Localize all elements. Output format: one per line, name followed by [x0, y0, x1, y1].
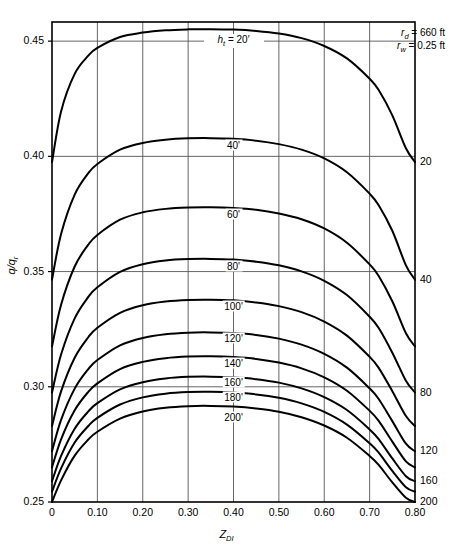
x-axis-tick-label: 0.30	[168, 506, 208, 518]
y-axis-title-text: q/qr	[5, 257, 17, 275]
curve-label-200ft: 200'	[222, 411, 245, 422]
x-axis-tick-label: 0.40	[214, 506, 254, 518]
curve-label-140ft: 140'	[222, 357, 245, 368]
y-axis-title: q/qr	[5, 257, 20, 275]
right-axis-label: 40	[420, 273, 432, 285]
x-axis-tick-label: 0	[32, 506, 72, 518]
curve-label-40ft: 40'	[225, 139, 242, 150]
x-axis-tick-label: 0.20	[123, 506, 163, 518]
x-axis-tick-label: 0.70	[350, 506, 390, 518]
x-axis-tick-label: 0.80	[395, 506, 435, 518]
curve-label-60ft: 60'	[225, 208, 242, 219]
curve-label-100ft: 100'	[222, 301, 245, 312]
right-axis-label: 80	[420, 386, 432, 398]
x-axis-title-text: ZDI	[219, 528, 233, 540]
right-axis-label: 200	[420, 495, 438, 507]
x-axis-tick-label: 0.10	[77, 506, 117, 518]
curve-label-180ft: 180'	[222, 392, 245, 403]
annotation-rd: rd = 660 ft	[335, 27, 445, 41]
curve-label-80ft: 80'	[225, 260, 242, 271]
curve-label-120ft: 120'	[222, 333, 245, 344]
x-axis-title: ZDI	[0, 528, 453, 543]
chart-figure: 0.250.300.350.400.4500.100.200.300.400.5…	[0, 0, 453, 555]
chart-svg	[0, 0, 453, 555]
x-axis-tick-label: 0.60	[304, 506, 344, 518]
curve-label-160ft: 160'	[222, 377, 245, 388]
right-axis-label: 160	[420, 474, 438, 486]
x-axis-tick-label: 0.50	[259, 506, 299, 518]
right-axis-label: 120	[420, 444, 438, 456]
curve-label-ht-20ft: ht = 20′	[203, 34, 263, 48]
right-axis-label: 20	[420, 155, 432, 167]
y-axis-tick-label: 0.45	[4, 34, 44, 46]
y-axis-tick-label: 0.30	[4, 380, 44, 392]
y-axis-tick-label: 0.40	[4, 149, 44, 161]
annotation-rw: rw = 0.25 ft	[335, 40, 445, 54]
